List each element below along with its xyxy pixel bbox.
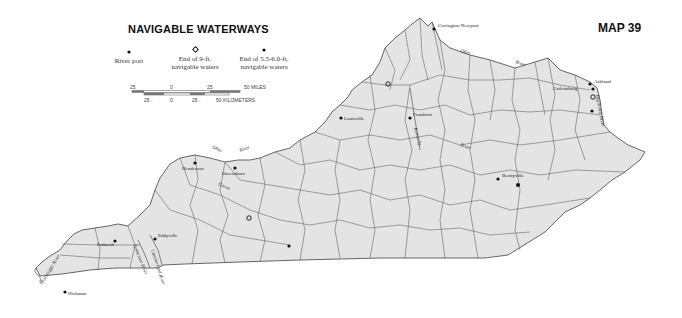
state-outline [36, 18, 645, 276]
dot-icon [193, 161, 196, 164]
city-label: Hickman [68, 291, 87, 296]
dot-icon [588, 82, 591, 85]
city-label: Henderson [182, 166, 204, 171]
city-label: Catlettsburg [553, 86, 578, 91]
dot-icon [233, 166, 236, 169]
dot-icon [408, 116, 411, 119]
kentucky-map: Covington-Newport Louisville Frankfort A… [0, 0, 682, 318]
dot-icon [590, 109, 593, 112]
city-label: Frankfort [413, 112, 432, 117]
dot-icon [432, 27, 435, 30]
city-label: Ashland [594, 79, 611, 84]
dot-icon [153, 237, 156, 240]
dot-icon [591, 87, 594, 90]
city-label: Louisville [344, 116, 365, 121]
river-label: Ohio [212, 144, 224, 153]
city-label: Paducah [97, 242, 114, 247]
city-label: Covington-Newport [438, 23, 479, 28]
city-label: Beattyville [502, 173, 525, 178]
river-label: River [238, 145, 251, 154]
dot-icon [496, 177, 499, 180]
dot-icon [287, 244, 290, 247]
city-label: Owensboro [222, 171, 246, 176]
dot-icon [516, 183, 520, 187]
dot-icon [339, 116, 342, 119]
city-label: Eddyville [158, 233, 178, 238]
dot-icon [63, 290, 66, 293]
